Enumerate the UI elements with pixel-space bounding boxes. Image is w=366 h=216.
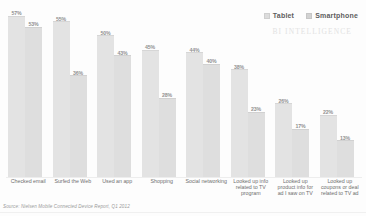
bar-column: 45% <box>142 8 159 178</box>
bar-group: 45%28% <box>140 8 185 178</box>
category-label: Checked email <box>6 178 51 202</box>
bar-column: 43% <box>114 8 131 178</box>
bar-value-label: 45% <box>142 44 159 50</box>
bar-column: 53% <box>25 8 42 178</box>
category-label: Used an app <box>95 178 140 202</box>
bar-value-label: 23% <box>248 106 265 112</box>
bar-column: 38% <box>231 8 248 178</box>
bar-chart: Tablet Smartphone BI INTELLIGENCE 57%53%… <box>0 0 366 216</box>
bar-value-label: 53% <box>25 21 42 27</box>
bar-column: 28% <box>159 8 176 178</box>
bar-column: 23% <box>248 8 265 178</box>
category-label: Looked up info related to TV program <box>229 178 274 202</box>
bar-value-label: 26% <box>275 98 292 104</box>
bar-value-label: 55% <box>53 16 70 22</box>
bar-value-label: 40% <box>203 58 220 64</box>
bar-smartphone <box>114 55 131 178</box>
bar-smartphone <box>203 64 220 178</box>
bar-value-label: 44% <box>186 47 203 53</box>
bar-tablet <box>231 69 248 178</box>
bar-column: 50% <box>97 8 114 178</box>
category-label: Surfed the Web <box>51 178 96 202</box>
bar-smartphone <box>159 98 176 178</box>
bar-column: 22% <box>320 8 337 178</box>
category-label: Social networking <box>184 178 229 202</box>
category-label: Looked up product info for ad I saw on T… <box>273 178 318 202</box>
category-label: Shopping <box>140 178 185 202</box>
bar-group: 26%17% <box>273 8 318 178</box>
bar-tablet <box>275 103 292 178</box>
bar-value-label: 50% <box>97 30 114 36</box>
bar-column: 44% <box>186 8 203 178</box>
bar-column: 36% <box>70 8 87 178</box>
bar-column: 55% <box>53 8 70 178</box>
bar-column: 26% <box>275 8 292 178</box>
bar-group: 55%36% <box>51 8 96 178</box>
bar-value-label: 57% <box>8 10 25 16</box>
bar-column: 57% <box>8 8 25 178</box>
bar-tablet <box>97 35 114 178</box>
bar-smartphone <box>70 75 87 178</box>
bar-column: 40% <box>203 8 220 178</box>
source-note: Source: Nielsen Mobile Connected Device … <box>3 204 130 209</box>
bar-group: 22%13% <box>318 8 363 178</box>
bar-value-label: 28% <box>159 92 176 98</box>
plot-area: 57%53%55%36%50%43%45%28%44%40%38%23%26%1… <box>6 8 362 178</box>
bar-column: 13% <box>337 8 354 178</box>
footer-divider <box>0 212 366 213</box>
category-label: Looked up coupons or deal related to TV … <box>318 178 363 202</box>
bar-value-label: 17% <box>292 123 309 129</box>
bar-tablet <box>53 21 70 178</box>
bar-smartphone <box>292 129 309 178</box>
bar-value-label: 36% <box>70 70 87 76</box>
bar-value-label: 13% <box>337 135 354 141</box>
bar-smartphone <box>25 27 42 178</box>
bar-group: 44%40% <box>184 8 229 178</box>
category-axis-labels: Checked emailSurfed the WebUsed an appSh… <box>6 178 362 202</box>
bar-tablet <box>186 52 203 178</box>
bar-smartphone <box>337 140 354 178</box>
bar-group: 57%53% <box>6 8 51 178</box>
bar-column: 17% <box>292 8 309 178</box>
bar-group: 50%43% <box>95 8 140 178</box>
bar-value-label: 22% <box>320 109 337 115</box>
bar-group: 38%23% <box>229 8 274 178</box>
bar-tablet <box>142 50 159 179</box>
bar-tablet <box>320 115 337 178</box>
bar-value-label: 43% <box>114 50 131 56</box>
bar-groups: 57%53%55%36%50%43%45%28%44%40%38%23%26%1… <box>6 8 362 178</box>
bar-tablet <box>8 16 25 179</box>
bar-value-label: 38% <box>231 64 248 70</box>
bar-smartphone <box>248 112 265 178</box>
